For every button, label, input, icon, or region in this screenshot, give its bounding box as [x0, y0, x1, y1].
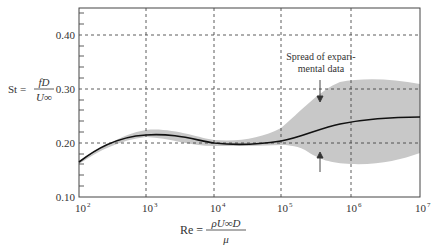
svg-text:Re =: Re =: [180, 223, 203, 237]
x-axis-label: Re = ρU∞D μ: [180, 217, 246, 245]
svg-text:10: 10: [75, 202, 87, 214]
y-tick-040: 0.40: [56, 29, 76, 41]
svg-text:10: 10: [210, 202, 222, 214]
svg-text:10: 10: [277, 202, 289, 214]
svg-text:5: 5: [289, 201, 293, 209]
svg-text:4: 4: [222, 201, 226, 209]
x-tick-labels: 10 2 10 3 10 4 10 5 10 6 10 7: [75, 201, 431, 214]
svg-text:U∞: U∞: [36, 91, 52, 103]
y-axis-label: St = fD U∞: [8, 76, 54, 103]
svg-text:2: 2: [87, 201, 91, 209]
svg-text:St =: St =: [8, 83, 26, 95]
svg-text:10: 10: [415, 202, 427, 214]
svg-text:μ: μ: [222, 233, 229, 245]
svg-text:fD: fD: [39, 76, 50, 88]
annotation-line2: mental data: [298, 63, 345, 74]
annotation-line1: Spread of expari-: [286, 51, 355, 62]
svg-text:10: 10: [346, 202, 358, 214]
svg-text:ρU∞D: ρU∞D: [210, 217, 240, 229]
y-tick-020: 0.20: [56, 137, 76, 149]
experimental-spread-band: [79, 79, 420, 164]
svg-text:6: 6: [358, 201, 362, 209]
y-tick-030: 0.30: [56, 83, 76, 95]
svg-text:7: 7: [427, 201, 431, 209]
y-tick-010: 0.10: [56, 191, 76, 203]
svg-text:3: 3: [154, 201, 158, 209]
svg-text:10: 10: [142, 202, 154, 214]
strouhal-chart: Spread of expari- mental data 0.10 0.20 …: [0, 0, 433, 249]
